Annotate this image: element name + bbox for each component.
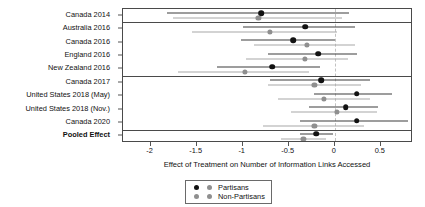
legend-shape-key-partisans xyxy=(190,185,203,190)
legend-item-partisans: Partisans xyxy=(190,183,265,192)
legend-item-non-partisans: Non-Partisans xyxy=(190,192,265,201)
x-axis: -2-1.5-1-0.500.5 xyxy=(122,142,412,162)
estimate-point xyxy=(256,16,261,21)
y-axis-label: Pooled Effect xyxy=(63,132,110,139)
confidence-interval-line xyxy=(192,31,337,32)
estimate-point xyxy=(302,24,308,30)
x-axis-tick-label: -2 xyxy=(146,147,153,154)
confidence-interval-line xyxy=(243,26,355,27)
group-separator-line xyxy=(123,130,411,131)
legend-color-key-non-partisans xyxy=(203,194,216,199)
confidence-interval-line xyxy=(241,40,335,41)
estimate-point xyxy=(291,37,297,43)
y-axis-label-column: Canada 2014Australia 2016Canada 2016Engl… xyxy=(0,0,118,145)
estimate-point xyxy=(268,29,273,34)
estimate-point xyxy=(312,123,317,128)
x-axis-tick-label: -1 xyxy=(238,147,245,154)
y-axis-label: Australia 2016 xyxy=(63,24,110,31)
legend-shape-key-non-partisans xyxy=(190,194,203,199)
x-axis-tick-label: -1.5 xyxy=(189,147,202,154)
estimate-point xyxy=(318,78,324,84)
x-axis-title: Effect of Treatment on Number of Informa… xyxy=(122,160,412,169)
x-axis-tick-label: 0.5 xyxy=(375,147,385,154)
estimate-point xyxy=(343,104,349,110)
plot-panel xyxy=(122,8,412,142)
estimate-point xyxy=(314,131,320,137)
y-axis-label: England 2016 xyxy=(64,51,110,58)
estimate-point xyxy=(354,91,360,97)
y-axis-label: Canada 2014 xyxy=(66,11,110,18)
estimate-point xyxy=(354,118,360,124)
confidence-interval-line xyxy=(268,53,357,54)
y-axis-label: United States 2018 (May) xyxy=(26,91,110,98)
estimate-point xyxy=(303,56,308,61)
y-axis-label: New Zealand 2016 xyxy=(48,65,110,72)
y-axis-label: Canada 2016 xyxy=(66,38,110,45)
estimate-point xyxy=(334,110,339,115)
estimate-point xyxy=(242,69,247,74)
estimate-point xyxy=(312,83,317,88)
x-axis-tick-label: -0.5 xyxy=(281,147,294,154)
legend: Partisans Non-Partisans xyxy=(185,180,272,204)
legend-label-partisans: Partisans xyxy=(218,183,249,192)
legend-color-key-partisans xyxy=(203,185,216,190)
group-separator-line xyxy=(123,76,411,77)
group-separator-line xyxy=(123,22,411,23)
estimate-point xyxy=(315,51,321,57)
legend-label-non-partisans: Non-Partisans xyxy=(218,192,265,201)
estimate-point xyxy=(321,96,326,101)
estimate-point xyxy=(301,136,306,141)
y-axis-label: Canada 2020 xyxy=(66,118,110,125)
confidence-interval-line xyxy=(246,58,347,59)
estimate-point xyxy=(305,43,310,48)
estimate-point xyxy=(269,64,275,70)
x-axis-tick-label: 0 xyxy=(332,147,336,154)
y-axis-label: Canada 2017 xyxy=(66,78,110,85)
zero-reference-line xyxy=(335,9,336,141)
forest-plot-figure: Canada 2014Australia 2016Canada 2016Engl… xyxy=(0,0,425,207)
y-axis-label: United States 2018 (Nov.) xyxy=(26,105,111,112)
